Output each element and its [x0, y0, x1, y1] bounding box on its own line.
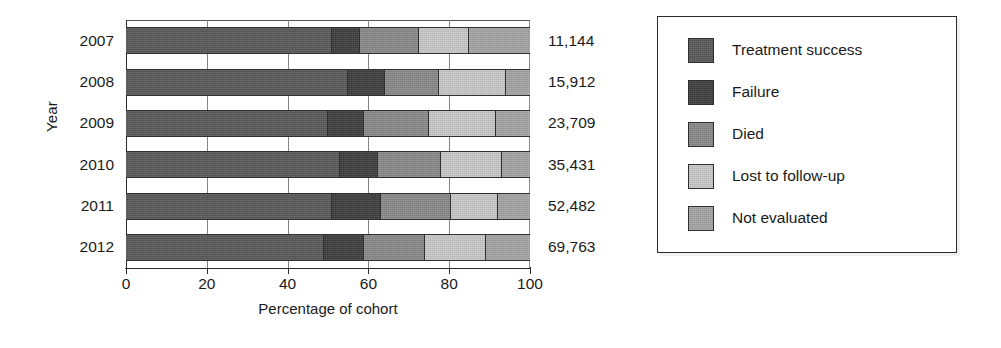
bar-segment[interactable] — [385, 70, 440, 95]
bar-segment[interactable] — [439, 70, 506, 95]
x-tick-mark — [530, 267, 531, 274]
bar-segment[interactable] — [348, 70, 384, 95]
bar-segment[interactable] — [429, 111, 496, 136]
y-tick-label: 2008 — [80, 73, 114, 91]
x-tick-label: 80 — [441, 275, 458, 293]
x-tick-label: 0 — [122, 275, 131, 293]
bar-segment[interactable] — [340, 152, 378, 177]
legend-item[interactable]: Treatment success — [688, 37, 862, 63]
bar-group — [126, 20, 530, 268]
bar-total-labels: 11,14415,91223,70935,43152,48269,763 — [548, 20, 640, 268]
legend-label: Lost to follow-up — [732, 167, 845, 185]
legend-box: Treatment successFailureDiedLost to foll… — [657, 16, 957, 253]
bar-total-label: 15,912 — [548, 73, 595, 91]
bar-row[interactable] — [126, 193, 530, 220]
legend-item[interactable]: Lost to follow-up — [688, 163, 845, 189]
legend-label: Failure — [732, 83, 779, 101]
bar-segment[interactable] — [451, 194, 497, 219]
bar-total-label: 11,144 — [548, 32, 594, 50]
x-tick-mark — [288, 267, 289, 274]
x-tick-label: 60 — [360, 275, 377, 293]
bar-segment[interactable] — [486, 235, 530, 260]
y-tick-label: 2007 — [80, 32, 114, 50]
legend-swatch-icon — [688, 164, 714, 189]
bar-segment[interactable] — [324, 235, 364, 260]
y-tick-label: 2012 — [80, 238, 114, 256]
bar-segment[interactable] — [332, 28, 360, 53]
bar-segment[interactable] — [332, 194, 380, 219]
bar-segment[interactable] — [126, 111, 328, 136]
legend-swatch-icon — [688, 38, 714, 63]
legend-label: Died — [732, 125, 764, 143]
bar-segment[interactable] — [126, 70, 348, 95]
bar-segment[interactable] — [126, 28, 332, 53]
legend-swatch-icon — [688, 122, 714, 147]
bar-total-label: 23,709 — [548, 114, 595, 132]
y-tick-label: 2009 — [80, 114, 114, 132]
legend-item[interactable]: Not evaluated — [688, 205, 828, 231]
bar-row[interactable] — [126, 69, 530, 96]
legend-item[interactable]: Failure — [688, 79, 779, 105]
plot-area — [126, 20, 530, 268]
legend-swatch-icon — [688, 80, 714, 105]
x-tick-mark — [449, 267, 450, 274]
bar-row[interactable] — [126, 151, 530, 178]
bar-segment[interactable] — [126, 235, 324, 260]
bar-total-label: 52,482 — [548, 197, 595, 215]
bar-segment[interactable] — [360, 28, 419, 53]
bar-segment[interactable] — [469, 28, 530, 53]
x-axis-line — [125, 268, 531, 269]
bar-total-label: 69,763 — [548, 238, 595, 256]
bar-segment[interactable] — [364, 235, 425, 260]
legend-label: Not evaluated — [732, 209, 828, 227]
x-tick-label: 40 — [279, 275, 296, 293]
x-tick-label: 100 — [517, 275, 543, 293]
bar-segment[interactable] — [498, 194, 530, 219]
y-tick-label: 2010 — [80, 156, 114, 174]
bar-segment[interactable] — [126, 194, 332, 219]
bar-segment[interactable] — [496, 111, 530, 136]
stacked-bar-chart-figure: Year 200720082009201020112012 0204060801… — [0, 0, 1001, 348]
bar-segment[interactable] — [506, 70, 530, 95]
y-axis-tick-labels: 200720082009201020112012 — [56, 20, 120, 268]
y-tick-label: 2011 — [81, 197, 114, 215]
x-tick-mark — [368, 267, 369, 274]
x-tick-label: 20 — [198, 275, 215, 293]
x-axis-tick-labels: 020406080100 — [126, 272, 530, 296]
bar-segment[interactable] — [419, 28, 470, 53]
bar-segment[interactable] — [502, 152, 530, 177]
bar-segment[interactable] — [328, 111, 364, 136]
bar-row[interactable] — [126, 27, 530, 54]
bar-segment[interactable] — [425, 235, 486, 260]
bar-segment[interactable] — [364, 111, 429, 136]
legend-swatch-icon — [688, 206, 714, 231]
x-tick-mark — [126, 267, 127, 274]
bar-segment[interactable] — [381, 194, 452, 219]
bar-segment[interactable] — [126, 152, 340, 177]
legend-item[interactable]: Died — [688, 121, 764, 147]
bar-row[interactable] — [126, 110, 530, 137]
bar-row[interactable] — [126, 234, 530, 261]
bar-segment[interactable] — [441, 152, 502, 177]
x-axis-title: Percentage of cohort — [126, 300, 530, 317]
bar-total-label: 35,431 — [548, 156, 595, 174]
bar-segment[interactable] — [378, 152, 441, 177]
legend-label: Treatment success — [732, 41, 862, 59]
x-tick-mark — [207, 267, 208, 274]
